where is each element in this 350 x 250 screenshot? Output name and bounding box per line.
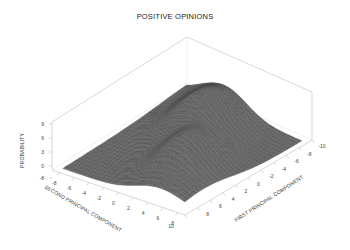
tick-label: -4 [282, 166, 287, 172]
tick-label: 2 [127, 205, 130, 211]
tick-label: 6 [219, 203, 222, 209]
tick-label: 9 [41, 121, 44, 127]
tick-label: 0 [41, 163, 44, 169]
tick-label: 0 [112, 200, 115, 206]
z-axis-label: PROBABILITY [19, 132, 25, 168]
tick-label: -2 [96, 195, 101, 201]
tick-label: -4 [82, 190, 87, 196]
tick-label: 6 [41, 135, 44, 141]
tick-label: -6 [294, 158, 299, 164]
tick-label: -2 [269, 173, 274, 179]
tick-label: 8 [206, 211, 209, 217]
tick-label: -6 [67, 185, 72, 191]
tick-label: 4 [142, 210, 145, 216]
plot-area: -80369-8-6-4-2024681086420-2-4-6-8-10 PR… [0, 0, 350, 250]
surface-mesh [63, 83, 302, 202]
tick-label: 6 [156, 215, 159, 221]
surface-chart: POSITIVE OPINIONS -80369-8-6-4-202468108… [0, 0, 350, 250]
tick-label: -10 [318, 143, 325, 149]
tick-label: 4 [232, 196, 235, 202]
tick-label: 3 [41, 149, 44, 155]
tick-label: -8 [52, 180, 57, 186]
tick-label: -8 [40, 175, 45, 181]
tick-label: 2 [244, 188, 247, 194]
tick-label: 0 [257, 181, 260, 187]
tick-label: -8 [307, 151, 312, 157]
x-axis-label: FIRST PRINCIPAL COMPONENT [233, 173, 305, 222]
tick-label: 10 [168, 223, 174, 229]
